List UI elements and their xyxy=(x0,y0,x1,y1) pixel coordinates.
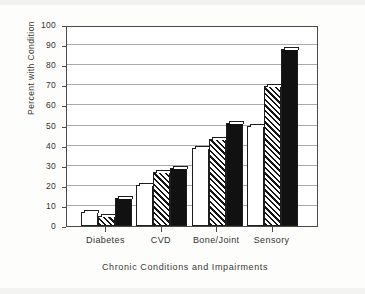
bar-sensory-hatched xyxy=(264,86,281,226)
y-axis-tick-label: 90 xyxy=(30,40,56,50)
x-axis-tick-mark xyxy=(161,227,162,232)
gridline xyxy=(67,64,317,65)
gridline xyxy=(67,44,317,45)
bar-sensory-black xyxy=(281,49,298,226)
y-axis-tick-label: 40 xyxy=(30,141,56,151)
bar-top-cap xyxy=(84,210,99,213)
plot-area xyxy=(66,26,318,227)
bar-top-cap xyxy=(118,196,133,199)
bar-top-cap xyxy=(284,47,299,50)
y-axis-tick-label: 30 xyxy=(30,161,56,171)
x-axis-tick-label: Diabetes xyxy=(86,235,125,245)
bar-top-cap xyxy=(212,137,227,140)
bar-bone-joint-hatched xyxy=(209,139,226,226)
bar-top-cap xyxy=(250,124,265,127)
bar-top-cap xyxy=(173,166,188,169)
bar-chart-figure: Percent with Condition Chronic Condition… xyxy=(0,0,365,294)
x-axis-tick-label: CVD xyxy=(151,235,171,245)
bar-cvd-hatched xyxy=(153,172,170,226)
x-axis-tick-label: Sensory xyxy=(254,235,290,245)
y-axis-tick-label: 10 xyxy=(30,201,56,211)
bar-bone-joint-white xyxy=(192,148,209,226)
x-axis-title: Chronic Conditions and Impairments xyxy=(40,262,330,272)
bar-top-cap xyxy=(229,121,244,124)
bar-cvd-black xyxy=(170,168,187,226)
x-axis-tick-mark xyxy=(272,227,273,232)
y-axis-tick-label: 80 xyxy=(30,60,56,70)
y-axis-tick-label: 70 xyxy=(30,80,56,90)
x-axis-tick-mark xyxy=(216,227,217,232)
bar-cvd-white xyxy=(136,185,153,226)
bar-top-cap xyxy=(267,84,282,87)
bar-top-cap xyxy=(101,214,116,217)
x-axis-tick-label: Bone/Joint xyxy=(193,235,240,245)
bar-bone-joint-black xyxy=(226,123,243,227)
bar-diabetes-hatched xyxy=(98,216,115,226)
bar-top-cap xyxy=(156,170,171,173)
bar-diabetes-black xyxy=(115,198,132,226)
y-axis-tick-mark xyxy=(62,227,66,228)
bar-top-cap xyxy=(139,183,154,186)
bar-sensory-white xyxy=(247,126,264,227)
bar-diabetes-white xyxy=(81,212,98,226)
y-axis-tick-label: 0 xyxy=(30,221,56,231)
y-axis-tick-label: 60 xyxy=(30,100,56,110)
x-axis-tick-mark xyxy=(105,227,106,232)
y-axis-tick-label: 100 xyxy=(30,20,56,30)
y-axis-tick-label: 20 xyxy=(30,181,56,191)
bar-top-cap xyxy=(195,146,210,149)
y-axis-tick-label: 50 xyxy=(30,121,56,131)
